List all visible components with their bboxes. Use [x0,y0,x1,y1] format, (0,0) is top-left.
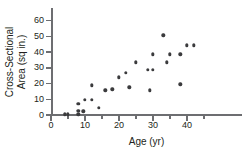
y-tick-label: 50 [26,32,44,41]
data-point [104,89,107,92]
data-point [134,61,137,64]
data-point [151,68,154,71]
data-point [178,53,181,56]
data-point [117,76,120,79]
x-tick-mark-minor [135,116,136,119]
y-tick-label: 10 [26,95,44,104]
plot-area [51,8,241,115]
data-point [185,44,188,47]
y-axis-title-line2: Area (sq in.) [15,35,26,89]
y-tick-label: 20 [26,79,44,88]
x-tick-label: 40 [177,121,197,130]
data-point [178,82,181,85]
y-tick-label: 40 [26,48,44,57]
data-point [151,53,154,56]
x-tick-mark-minor [101,116,102,119]
x-tick-label: 30 [143,121,163,130]
y-axis-title: Cross-Sectional Area (sq in.) [2,8,28,116]
data-point [165,61,168,64]
data-point [161,33,164,36]
x-axis-title: Age (yr) [51,136,242,147]
y-tick-label: 60 [26,16,44,25]
x-tick-label: 10 [75,121,95,130]
data-point [90,98,93,101]
x-tick-mark-minor [203,116,204,119]
y-tick-label: 30 [26,63,44,72]
x-tick-mark-minor [67,116,68,119]
data-point [76,102,79,105]
y-tick-label: 0 [26,111,44,120]
data-point [127,86,130,89]
scatter-chart: 0102030405060 010203040 Cross-Sectional … [0,0,244,156]
data-point [192,44,195,47]
x-tick-label: 20 [109,121,129,130]
data-point [97,106,100,109]
data-point [124,71,127,74]
x-tick-mark-minor [169,116,170,119]
data-point [76,109,79,112]
data-point [146,68,149,71]
y-axis-title-line1: Cross-Sectional [4,27,15,98]
data-point [168,53,171,56]
data-point [90,83,93,86]
x-tick-label: 0 [41,121,61,130]
data-point [148,89,151,92]
data-point [82,110,85,113]
data-point [83,98,86,101]
data-point [110,88,113,91]
